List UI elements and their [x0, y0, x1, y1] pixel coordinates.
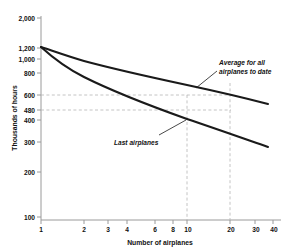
x-tick-2: 2 [82, 226, 86, 233]
annotation-last-airplanes: Last airplanes [114, 139, 159, 147]
y-tick-100: 100 [24, 214, 35, 221]
x-tick-4: 4 [125, 226, 129, 233]
x-tick-1: 1 [39, 226, 43, 233]
x-axis-title: Number of airplanes [127, 239, 193, 247]
annotation-average-for-all-airplanes: Average for all airplanes to date [218, 59, 272, 76]
y-tick-1200: 1,200 [18, 45, 35, 53]
y-tick-480: 480 [24, 107, 35, 114]
reference-lines [41, 83, 231, 220]
x-tick-3: 3 [106, 226, 110, 233]
y-axis-title: Thousands of hours [11, 85, 18, 151]
y-tick-200: 200 [24, 169, 35, 176]
y-tick-2000: 2,000 [18, 15, 35, 23]
x-tick-20: 20 [227, 226, 235, 233]
leader-line-average [196, 71, 217, 88]
y-tick-800: 800 [24, 70, 35, 77]
annotation-average-line1: Average for all [218, 59, 265, 67]
x-tick-labels: 1 2 3 4 6 8 10 20 30 40 [39, 226, 278, 233]
learning-curve-chart: 2,000 1,200 1,000 800 600 480 400 300 20… [0, 0, 287, 252]
x-axis [41, 220, 281, 224]
y-tick-400: 400 [24, 117, 35, 124]
annotation-average-line2: airplanes to date [219, 68, 272, 76]
y-tick-600: 600 [24, 92, 35, 99]
x-tick-8: 8 [171, 226, 175, 233]
y-tick-300: 300 [24, 139, 35, 146]
x-tick-40: 40 [270, 226, 278, 233]
x-tick-6: 6 [153, 226, 157, 233]
x-tick-10: 10 [184, 226, 192, 233]
y-tick-labels: 2,000 1,200 1,000 800 600 480 400 300 20… [18, 15, 35, 221]
x-tick-30: 30 [252, 226, 260, 233]
series-average-for-all-airplanes [41, 47, 268, 104]
y-tick-1000: 1,000 [18, 56, 35, 64]
leader-line-last [159, 120, 186, 135]
